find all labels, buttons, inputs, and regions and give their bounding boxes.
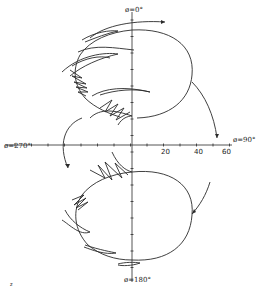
- arrowhead: [161, 20, 165, 24]
- lower-feather-2: [84, 245, 116, 253]
- upper-main-loop: [132, 30, 192, 118]
- lower-zigzag-1: [90, 162, 128, 180]
- tick-label-60: 60: [222, 148, 231, 156]
- tick-label-40: 40: [194, 148, 203, 156]
- lower-zigzag-2: [72, 195, 88, 210]
- label-phi-0: ø=0°: [125, 6, 143, 14]
- corner-mark: z: [10, 281, 13, 287]
- upper-feather-5: [92, 89, 150, 96]
- lower-feather-3: [118, 262, 140, 265]
- upper-feather-3: [62, 53, 118, 76]
- lower-right-arrow: [192, 182, 210, 214]
- tick-label-20: 20: [161, 148, 170, 156]
- lower-arc-left: [76, 152, 132, 260]
- upper-feather-1: [82, 31, 118, 42]
- right-connector-arrow: [192, 82, 217, 138]
- left-connector-arrow: [63, 118, 82, 168]
- label-phi-180: ø=180°: [124, 276, 151, 284]
- upper-arc-left: [75, 30, 132, 117]
- diagram-canvas: ø=0° ø=270° ø=90° ø=180° 20 40 60 z: [0, 0, 257, 292]
- axis-ticks: [15, 20, 230, 268]
- label-phi-270: ø=270°: [4, 142, 31, 150]
- label-phi-90: ø=90°: [233, 136, 256, 144]
- arrowhead: [215, 134, 219, 138]
- lower-main-loop: [132, 171, 192, 260]
